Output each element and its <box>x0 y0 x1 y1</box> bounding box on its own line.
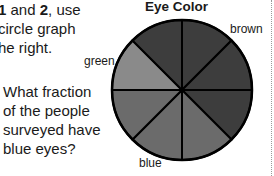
label-green: green <box>84 54 115 68</box>
pie-slices <box>112 20 252 160</box>
dotted-divider <box>271 0 272 176</box>
label-brown: brown <box>230 22 263 36</box>
label-blue: blue <box>139 156 162 170</box>
